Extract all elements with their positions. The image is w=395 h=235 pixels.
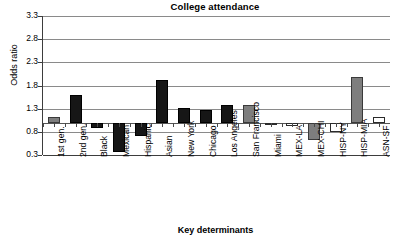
minor-tick bbox=[206, 123, 207, 127]
minor-tick bbox=[271, 123, 272, 127]
bar-chicago bbox=[200, 110, 212, 123]
minor-tick bbox=[162, 123, 163, 127]
y-tick-label-3.3: 3.3 bbox=[8, 11, 38, 20]
x-tick-label-hisp-mia: HISP-MIA bbox=[350, 157, 362, 221]
chart-figure: College attendance Odds ratio 3.32.82.31… bbox=[0, 0, 395, 235]
x-tick-label-mexican: Mexican bbox=[112, 157, 124, 221]
y-tick-label-2.8: 2.8 bbox=[8, 34, 38, 43]
x-axis-title: Key determinants bbox=[42, 225, 389, 235]
minor-tick bbox=[249, 123, 250, 127]
minor-tick bbox=[54, 123, 55, 127]
x-tick-label-text: San Francisco bbox=[252, 102, 261, 157]
gridline-1.8 bbox=[43, 86, 390, 87]
minor-tick bbox=[97, 123, 98, 127]
x-tick-label-text: HISP-NY bbox=[339, 122, 348, 157]
x-tick-label-los-angeles: Los Angeles bbox=[220, 157, 232, 221]
x-tick-label-mex-la: MEX-LA bbox=[285, 157, 297, 221]
gridline-3.3 bbox=[43, 16, 390, 17]
x-tick-label-chicago: Chicago bbox=[199, 157, 211, 221]
bar-hisp-mia bbox=[351, 77, 363, 122]
x-tick-label-text: HISP-MIA bbox=[360, 119, 369, 157]
x-tick-label-1st-gen: 1st gen. bbox=[47, 157, 59, 221]
x-tick-label-text: Chicago bbox=[209, 125, 218, 157]
gridline-2.8 bbox=[43, 39, 390, 40]
x-tick-label-text: Hispanic bbox=[144, 124, 153, 157]
x-tick-label-asn-sf: ASN-SF bbox=[372, 157, 384, 221]
x-tick-label-mex-chi: MEX-CHI bbox=[307, 157, 319, 221]
y-tick-label-2.3: 2.3 bbox=[8, 57, 38, 66]
bar-asian bbox=[156, 80, 168, 123]
x-tick-label-new-york: New York bbox=[177, 157, 189, 221]
x-tick-label-hisp-ny: HISP-NY bbox=[329, 157, 341, 221]
y-tick-label-1.3: 1.3 bbox=[8, 104, 38, 113]
x-tick-label-2nd-gen: 2nd gen. bbox=[69, 157, 81, 221]
gridline-1.3 bbox=[43, 109, 390, 110]
x-tick-label-hispanic: Hispanic bbox=[134, 157, 146, 221]
minor-tick bbox=[108, 123, 109, 127]
x-tick-label-text: Miami bbox=[274, 134, 283, 157]
minor-tick bbox=[314, 123, 315, 127]
y-tick-label-0.3: 0.3 bbox=[8, 150, 38, 159]
x-tick-label-asian: Asian bbox=[155, 157, 167, 221]
minor-tick bbox=[379, 123, 380, 127]
y-tick-label-1.8: 1.8 bbox=[8, 81, 38, 90]
minor-tick bbox=[282, 123, 283, 127]
x-tick-label-text: 1st gen. bbox=[57, 126, 66, 157]
minor-tick bbox=[184, 123, 185, 127]
minor-tick bbox=[43, 123, 44, 127]
gridline-2.3 bbox=[43, 62, 390, 63]
x-tick-label-miami: Miami bbox=[264, 157, 276, 221]
bar-2nd-gen bbox=[70, 95, 82, 123]
x-tick-label-text: New York bbox=[187, 121, 196, 157]
chart-title: College attendance bbox=[40, 1, 390, 12]
x-tick-label-black: Black bbox=[90, 157, 102, 221]
y-tick-mark-0.3 bbox=[38, 155, 42, 156]
x-tick-label-text: Asian bbox=[165, 136, 174, 158]
minor-tick bbox=[173, 123, 174, 127]
x-tick-label-text: Black bbox=[100, 136, 109, 157]
x-tick-label-text: MEX-CHI bbox=[317, 121, 326, 157]
x-tick-label-san-francisco: San Francisco bbox=[242, 157, 254, 221]
minor-tick bbox=[76, 123, 77, 127]
x-tick-label-text: 2nd gen. bbox=[79, 124, 88, 157]
minor-tick bbox=[336, 123, 337, 127]
y-tick-label-0.8: 0.8 bbox=[8, 127, 38, 136]
x-tick-label-text: ASN-SF bbox=[382, 125, 391, 157]
x-tick-label-text: Los Angeles bbox=[230, 110, 239, 157]
x-tick-label-text: Mexican bbox=[122, 125, 131, 157]
minor-tick bbox=[119, 123, 120, 127]
x-tick-label-text: MEX-LA bbox=[295, 125, 304, 157]
minor-tick bbox=[141, 123, 142, 127]
